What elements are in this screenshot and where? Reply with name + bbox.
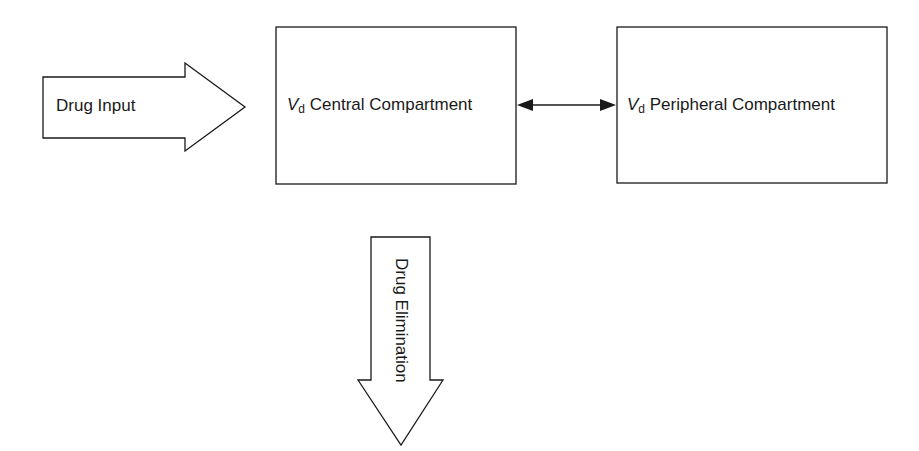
diagram-canvas <box>0 0 919 451</box>
arrowhead-right-icon <box>600 99 616 111</box>
central-compartment-text: Central Compartment <box>310 95 473 114</box>
volume-subscript: d <box>638 102 645 116</box>
volume-symbol: V <box>287 95 298 114</box>
peripheral-compartment-label: Vd Peripheral Compartment <box>627 95 835 116</box>
drug-elimination-label: Drug Elimination <box>391 258 411 383</box>
peripheral-compartment-text: Peripheral Compartment <box>650 95 835 114</box>
volume-subscript: d <box>298 102 305 116</box>
arrowhead-left-icon <box>517 99 533 111</box>
central-compartment-label: Vd Central Compartment <box>287 95 472 116</box>
bidirectional-arrow <box>517 99 616 111</box>
volume-symbol: V <box>627 95 638 114</box>
drug-input-label: Drug Input <box>56 96 135 116</box>
